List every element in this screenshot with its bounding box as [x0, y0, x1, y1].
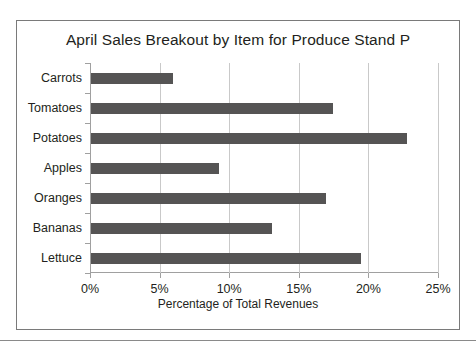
gridline	[438, 63, 439, 273]
category-label: Oranges	[34, 193, 82, 204]
category-label: Bananas	[33, 223, 82, 234]
x-tick-label: 25%	[425, 282, 450, 296]
x-axis-title: Percentage of Total Revenues	[17, 297, 459, 311]
x-tick-label: 5%	[151, 282, 169, 296]
category-label: Carrots	[41, 73, 82, 84]
x-tick-mark	[299, 273, 300, 278]
y-tick-mark	[85, 213, 90, 214]
y-tick-mark	[85, 123, 90, 124]
plot-area: CarrotsTomatoesPotatoesApplesOrangesBana…	[90, 63, 438, 273]
y-tick-mark	[85, 93, 90, 94]
bar	[91, 223, 272, 234]
bar	[91, 73, 173, 84]
chart-title: April Sales Breakout by Item for Produce…	[17, 31, 459, 49]
bar	[91, 253, 361, 264]
x-axis-line	[90, 272, 438, 273]
chart-frame: April Sales Breakout by Item for Produce…	[16, 20, 460, 330]
category-label: Tomatoes	[28, 103, 82, 114]
bar	[91, 133, 407, 144]
x-tick-label: 0%	[81, 282, 99, 296]
x-tick-mark	[438, 273, 439, 278]
x-tick-mark	[90, 273, 91, 278]
category-label: Lettuce	[41, 253, 82, 264]
y-tick-mark	[85, 63, 90, 64]
x-tick-mark	[368, 273, 369, 278]
gridline	[368, 63, 369, 273]
category-label: Potatoes	[33, 133, 82, 144]
bar	[91, 103, 333, 114]
gridline	[229, 63, 230, 273]
y-tick-mark	[85, 243, 90, 244]
gridline	[299, 63, 300, 273]
y-tick-mark	[85, 153, 90, 154]
x-tick-mark	[160, 273, 161, 278]
y-tick-mark	[85, 183, 90, 184]
x-tick-label: 15%	[286, 282, 311, 296]
bar	[91, 163, 219, 174]
bar	[91, 193, 326, 204]
page-divider-rule	[0, 340, 476, 341]
category-label: Apples	[44, 163, 82, 174]
x-tick-mark	[229, 273, 230, 278]
x-tick-label: 20%	[356, 282, 381, 296]
x-tick-label: 10%	[217, 282, 242, 296]
